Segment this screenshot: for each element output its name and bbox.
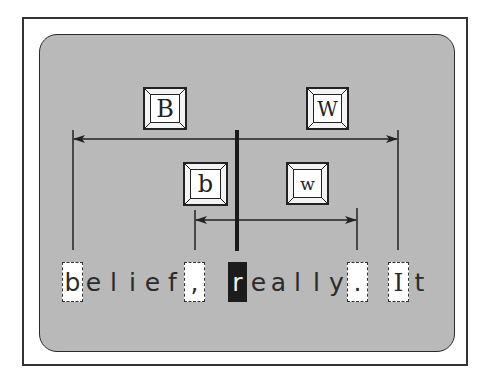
key-W: W [306,87,349,130]
char: e [142,262,163,302]
key-B-label: B [150,94,180,123]
key-W-label: W [313,94,342,123]
key-b: b [183,162,228,206]
char: e [83,262,104,302]
char: i [122,262,143,302]
char: l [306,262,327,302]
char-b-mark: b [62,262,83,302]
motion-arrows [0,0,493,389]
char: l [103,262,124,302]
char: f [162,262,183,302]
key-b-label: b [190,169,221,199]
char: t [409,262,430,302]
char: l [287,262,308,302]
char: y [326,262,347,302]
char: e [248,262,269,302]
char-period-mark: . [347,262,368,302]
key-B: B [143,87,187,130]
char-I-mark: I [388,262,409,302]
char-comma-mark: , [184,262,205,302]
key-w: w [286,162,329,205]
char: a [268,262,289,302]
cursor-char: r [228,262,247,302]
key-w-label: w [293,169,322,198]
